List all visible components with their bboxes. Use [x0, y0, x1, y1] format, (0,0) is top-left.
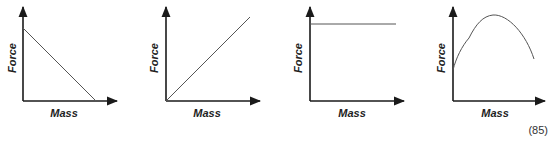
graph-a: Force Mass: [6, 7, 117, 119]
y-axis-label: Force: [435, 43, 447, 73]
graph-c: Force Mass: [292, 7, 404, 119]
y-axis-label: Force: [148, 43, 160, 73]
y-axis-label: Force: [6, 43, 18, 73]
plot-curve: [453, 15, 534, 70]
graph-d: Force Mass: [435, 7, 545, 119]
x-axis-label: Mass: [481, 107, 509, 119]
x-axis-label: Mass: [338, 107, 366, 119]
plot-line: [166, 17, 250, 101]
plot-line: [23, 28, 96, 101]
graph-b: Force Mass: [148, 7, 260, 119]
figure-number: (85): [528, 124, 548, 136]
graphs-figure: Force Mass Force Mass Force Mass Force M…: [0, 0, 551, 143]
x-axis-label: Mass: [50, 107, 78, 119]
y-axis-label: Force: [292, 43, 304, 73]
x-axis-label: Mass: [193, 107, 221, 119]
